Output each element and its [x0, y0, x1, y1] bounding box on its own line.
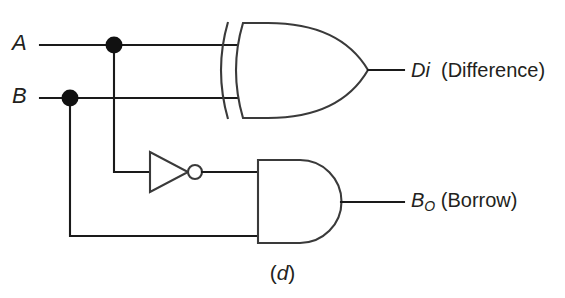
- logic-circuit-figure: A B Di (Difference) BO (Borrow) (d): [0, 0, 565, 298]
- and-gate-body: [258, 160, 341, 243]
- output-description-bo: (Borrow): [441, 189, 518, 211]
- output-description-di: (Difference): [441, 59, 545, 81]
- output-symbol-di: Di: [411, 59, 430, 81]
- caption-close-paren: ): [288, 261, 295, 284]
- caption-open-paren: (: [270, 261, 277, 284]
- xor-gate-inner-arc: [221, 22, 228, 119]
- circuit-schematic: [0, 0, 565, 298]
- wire-branch-a-to-inverter: [114, 45, 150, 172]
- xor-gate-body: [236, 23, 368, 118]
- not-gate-bubble-icon: [188, 165, 202, 179]
- junction-dot-b: [62, 90, 79, 107]
- figure-caption: (d): [0, 262, 565, 283]
- output-subscript-bo: O: [424, 198, 435, 214]
- output-symbol-bo: B: [411, 189, 424, 211]
- not-gate-triangle: [150, 152, 188, 192]
- output-label-bo: BO (Borrow): [411, 190, 517, 213]
- input-label-a: A: [12, 32, 27, 54]
- caption-letter: d: [277, 261, 289, 284]
- junction-dot-a: [106, 37, 123, 54]
- output-label-di: Di (Difference): [411, 60, 545, 80]
- input-label-b: B: [12, 85, 27, 107]
